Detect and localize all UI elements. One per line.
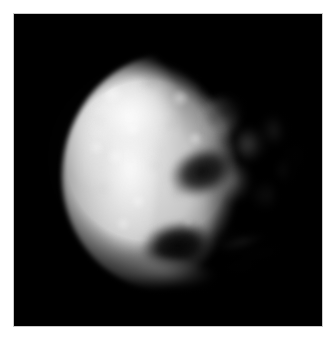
central-dark-depression: [155, 127, 252, 214]
right-dark-notch: [207, 221, 260, 265]
space-vignette: [14, 14, 322, 326]
image-viewer: [0, 0, 336, 342]
comet-nucleus-body: [62, 52, 262, 292]
image-caption: [14, 328, 322, 341]
comet-nucleus-photograph[interactable]: [14, 14, 322, 326]
ragged-right-flank-region: [194, 74, 312, 259]
lower-bright-ridge: [104, 247, 236, 308]
lower-dark-crater: [132, 212, 223, 281]
upper-right-shadow-region: [190, 80, 260, 144]
dust-wisp-filaments: [211, 200, 322, 308]
upper-left-highlight-region: [80, 64, 190, 174]
coma-haze-region: [44, 44, 294, 294]
left-limb-region: [64, 72, 156, 280]
terminator-shading: [210, 66, 270, 281]
cratered-surface-texture: [70, 62, 260, 287]
